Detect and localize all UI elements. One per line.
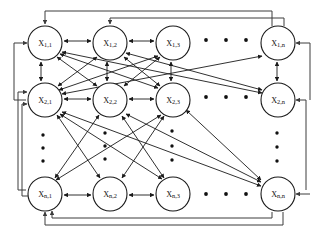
loop-left-lower-2 — [22, 104, 28, 196]
edge-x23-xn1-diag — [56, 115, 161, 180]
loop-right-upper — [296, 43, 310, 100]
node-x-n-2[interactable]: Xn,2 — [93, 177, 127, 211]
ellipsis-dot — [224, 38, 228, 42]
loop-left-outer — [14, 43, 27, 100]
loop-top-inner — [110, 18, 284, 26]
ellipsis-dot — [170, 158, 173, 161]
ellipsis-col-n — [275, 131, 278, 162]
edge-x21-xn2-diag — [57, 115, 100, 178]
ellipsis-dot — [275, 145, 278, 148]
ellipsis-dot — [103, 144, 106, 147]
ellipsis-dot — [244, 192, 248, 196]
ellipsis-dot — [103, 131, 106, 134]
loop-bottom-inner — [52, 211, 272, 218]
ellipsis-dot — [224, 95, 228, 99]
ellipsis-dot — [170, 144, 173, 147]
ellipsis-dot — [204, 38, 208, 42]
node-x-n-1[interactable]: Xn,1 — [28, 177, 62, 211]
node-x-2-3[interactable]: X2,3 — [156, 83, 190, 117]
ellipsis-dot — [204, 95, 208, 99]
node-x-2-2[interactable]: X2,2 — [93, 83, 127, 117]
ellipsis-row-n — [204, 192, 248, 196]
ellipsis-dot — [170, 129, 173, 132]
ellipsis-col-1 — [41, 133, 44, 162]
node-layer: X1,1 X1,2 X1,3 X1,n X2,1 X2,2 — [28, 26, 295, 211]
ellipsis-dot — [41, 159, 44, 162]
ellipsis-dot — [275, 131, 278, 134]
ellipsis-col-2 — [103, 131, 106, 160]
node-x-1-3[interactable]: X1,3 — [156, 26, 190, 60]
diagonal-edges-row1-row2 — [57, 52, 262, 94]
node-x-2-n[interactable]: X2,n — [261, 83, 295, 117]
ellipsis-dot — [224, 192, 228, 196]
node-x-1-2[interactable]: X1,2 — [93, 26, 127, 60]
network-diagram: X1,1 X1,2 X1,3 X1,n X2,1 X2,2 — [0, 0, 324, 235]
diagonal-edges-row2-rown — [55, 110, 261, 186]
ellipsis-dot — [41, 146, 44, 149]
ellipsis-row-1 — [204, 38, 248, 42]
node-x-2-1[interactable]: X2,1 — [28, 83, 62, 117]
ellipsis-dot — [103, 157, 106, 160]
loop-right-mid — [296, 100, 306, 190]
ellipsis-dot — [244, 38, 248, 42]
edge-x23-xnn-diag — [186, 110, 261, 180]
ellipsis-row-2 — [204, 95, 248, 99]
node-x-1-n[interactable]: X1,n — [261, 26, 295, 60]
node-x-1-1[interactable]: X1,1 — [28, 26, 62, 60]
ellipsis-dot — [275, 159, 278, 162]
ellipsis-dot — [204, 192, 208, 196]
figure-canvas: X1,1 X1,2 X1,3 X1,n X2,1 X2,2 — [0, 0, 324, 235]
ellipsis-col-3 — [170, 129, 173, 161]
ellipsis-dot — [244, 95, 248, 99]
node-x-n-n[interactable]: Xn,n — [261, 177, 295, 211]
ellipsis-dot — [41, 133, 44, 136]
node-x-n-3[interactable]: Xn,3 — [156, 177, 190, 211]
